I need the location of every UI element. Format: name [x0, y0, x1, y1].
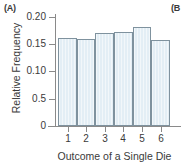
plot-area	[56, 14, 178, 126]
x-tick-label: 1	[61, 134, 75, 144]
y-tick-label: 0.5	[32, 94, 46, 104]
y-tick-mark	[49, 17, 55, 18]
panel-label-a: (A)	[4, 3, 16, 13]
figure-panel-a: (A) (B Relative Frequency 0.200.150.100.…	[0, 0, 187, 168]
y-tick-mark	[49, 71, 55, 72]
bar	[95, 33, 114, 126]
y-tick-label: 0.20	[27, 12, 46, 22]
y-axis-title: Relative Frequency	[10, 13, 22, 123]
x-axis-title: Outcome of a Single Die	[48, 150, 181, 162]
y-tick-label: 0.15	[27, 39, 46, 49]
panel-label-b: (B	[171, 3, 180, 13]
bar	[133, 27, 152, 126]
y-tick-label: 0	[40, 121, 46, 131]
x-tick-label: 2	[79, 134, 93, 144]
y-tick-mark	[49, 126, 55, 127]
x-tick-label: 5	[135, 134, 149, 144]
y-tick-mark	[49, 44, 55, 45]
x-tick-mark	[86, 127, 87, 132]
bar	[77, 39, 96, 126]
bar	[114, 32, 133, 126]
x-tick-mark	[68, 127, 69, 132]
x-tick-label: 4	[116, 134, 130, 144]
x-tick-label: 6	[154, 134, 168, 144]
x-tick-mark	[142, 127, 143, 132]
bar	[151, 40, 170, 126]
y-tick-label: 0.10	[27, 66, 46, 76]
x-tick-mark	[161, 127, 162, 132]
y-tick-mark	[49, 99, 55, 100]
x-tick-label: 3	[98, 134, 112, 144]
x-tick-mark	[123, 127, 124, 132]
x-tick-mark	[105, 127, 106, 132]
bar	[58, 38, 77, 126]
